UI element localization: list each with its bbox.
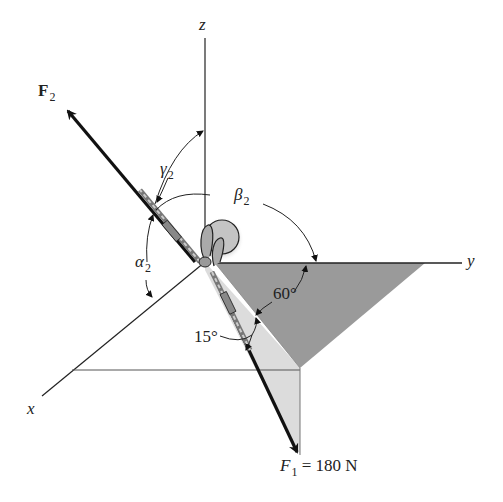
x-axis (42, 262, 205, 396)
alpha2-arc-bottom (146, 280, 152, 297)
f1-subscript: 1 (291, 465, 297, 479)
alpha-symbol: α (135, 252, 144, 271)
beta-symbol: β (234, 185, 242, 204)
beta2-arc-right (263, 204, 316, 261)
z-axis-label: z (199, 16, 206, 33)
y-label-text: y (467, 251, 475, 270)
beta2-label: β2 (234, 186, 249, 203)
gamma-subscript: 2 (168, 168, 174, 182)
f2-label: F2 (38, 82, 55, 99)
gamma-symbol: γ (160, 159, 167, 178)
f1-value: 180 N (315, 456, 357, 475)
z-label-text: z (199, 15, 206, 34)
x-label-text: x (27, 399, 35, 418)
angle-15-label: 15° (194, 328, 218, 345)
f2-symbol: F (38, 81, 48, 100)
f2-sleeve (162, 220, 182, 241)
f1-symbol: F (280, 456, 290, 475)
eyebolt-icon (199, 217, 244, 267)
f1-equals: = (302, 456, 312, 475)
angle-60-label: 60° (273, 285, 297, 302)
beta2-arc (156, 194, 210, 210)
gamma2-arc-start (157, 178, 168, 202)
f1-label: F1 = 180 N (280, 457, 358, 474)
x-axis-label: x (27, 400, 35, 417)
gamma2-label: γ2 (160, 160, 174, 177)
y-axis-label: y (467, 252, 475, 269)
diagram-canvas (0, 0, 503, 502)
alpha-subscript: 2 (145, 261, 151, 275)
alpha2-label: α2 (135, 253, 151, 270)
beta-subscript: 2 (243, 194, 249, 208)
f2-subscript: 2 (49, 90, 55, 104)
